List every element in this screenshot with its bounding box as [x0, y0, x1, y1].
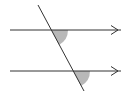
parallel-lines-diagram — [0, 0, 129, 95]
background — [0, 0, 129, 95]
